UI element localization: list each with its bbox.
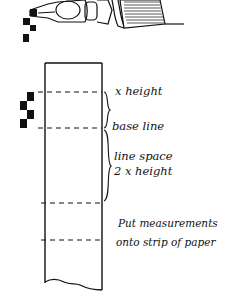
dashed-guide-lines: [38, 92, 102, 240]
x-height-brace-icon: [104, 92, 110, 128]
instruction-line-1: Put measurements: [118, 218, 218, 229]
x-height-label: x height: [115, 86, 162, 98]
pen-width-marks-top: [23, 9, 37, 42]
pen-width-marks-strip: [20, 92, 34, 128]
base-line-label: base line: [112, 121, 164, 133]
line-space-label: line space: [114, 151, 173, 163]
instruction-line-2: onto strip of paper: [116, 237, 216, 248]
line-space-value-label: 2 x height: [114, 166, 172, 178]
brace-icons: [104, 92, 111, 201]
paper-strip: [45, 63, 102, 290]
line-space-brace-icon: [104, 130, 111, 201]
calligraphy-pen-nib-icon: [30, 0, 184, 28]
